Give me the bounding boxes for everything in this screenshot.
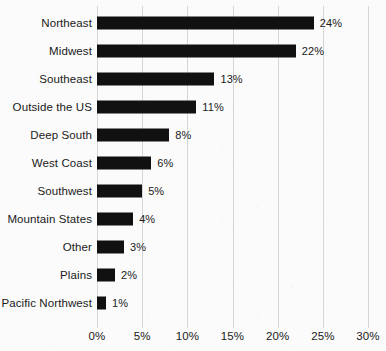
bar-row: Southeast13% [97, 65, 368, 93]
category-label: Midwest [49, 45, 92, 57]
category-label: Northeast [41, 17, 92, 29]
bar [97, 269, 115, 282]
x-tick-label: 25% [311, 330, 334, 342]
bar-value-label: 1% [112, 297, 128, 309]
x-tick-label: 20% [266, 330, 289, 342]
bar [97, 73, 214, 86]
gridline-30pct [368, 6, 369, 328]
bar-value-label: 13% [220, 73, 242, 85]
bar-row: Deep South8% [97, 121, 368, 149]
x-tick-label: 10% [176, 330, 199, 342]
bar-row: Northeast24% [97, 9, 368, 37]
x-tick-label: 5% [134, 330, 151, 342]
bar [97, 241, 124, 254]
x-axis-tick-labels: 0%5%10%15%20%25%30% [97, 330, 368, 350]
bar-row: Other3% [97, 233, 368, 261]
bar-value-label: 22% [302, 45, 324, 57]
category-label: Pacific Northwest [1, 297, 92, 309]
bar-row: Southwest5% [97, 177, 368, 205]
bar-row: Plains2% [97, 261, 368, 289]
category-label: Southeast [39, 73, 92, 85]
x-tick-label: 30% [356, 330, 379, 342]
bar [97, 101, 196, 114]
bar-value-label: 11% [202, 101, 224, 113]
bar-row: Pacific Northwest1% [97, 289, 368, 317]
bar [97, 213, 133, 226]
x-tick-label: 15% [221, 330, 244, 342]
bar-value-label: 2% [121, 269, 137, 281]
bar-row: Outside the US11% [97, 93, 368, 121]
bar-value-label: 4% [139, 213, 155, 225]
category-label: Southwest [37, 185, 92, 197]
bar-row: Mountain States4% [97, 205, 368, 233]
bar [97, 45, 296, 58]
bar-row: Midwest22% [97, 37, 368, 65]
category-label: West Coast [32, 157, 92, 169]
category-label: Outside the US [13, 101, 92, 113]
bar [97, 185, 142, 198]
bar-row: West Coast6% [97, 149, 368, 177]
category-label: Deep South [30, 129, 92, 141]
bar-value-label: 5% [148, 185, 164, 197]
category-label: Plains [60, 269, 92, 281]
bar [97, 129, 169, 142]
plot-area: Northeast24%Midwest22%Southeast13%Outsid… [97, 6, 368, 328]
bar-value-label: 3% [130, 241, 146, 253]
bar-value-label: 8% [175, 129, 191, 141]
bar-chart: Northeast24%Midwest22%Southeast13%Outsid… [0, 0, 386, 351]
x-tick-label: 0% [89, 330, 106, 342]
bar [97, 17, 314, 30]
category-label: Mountain States [7, 213, 92, 225]
category-label: Other [63, 241, 92, 253]
bar [97, 157, 151, 170]
bar [97, 297, 106, 310]
bar-value-label: 6% [157, 157, 173, 169]
bar-value-label: 24% [320, 17, 342, 29]
